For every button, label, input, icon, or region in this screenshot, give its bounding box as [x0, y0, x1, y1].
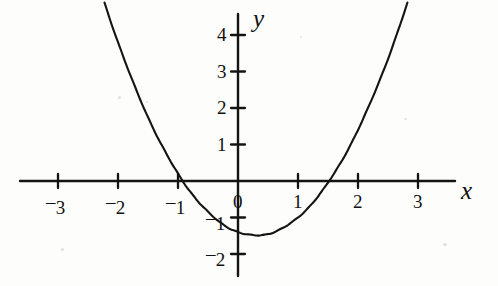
minus-sign: – — [106, 191, 115, 212]
y-tick-label: 1 — [217, 135, 227, 154]
y-tick-label: 4 — [217, 25, 227, 44]
y-tick-label: 3 — [217, 62, 227, 81]
scan-speck — [300, 36, 302, 38]
scan-speck — [404, 118, 407, 120]
minus-sign: – — [166, 191, 175, 212]
x-tick-label: 0 — [233, 192, 243, 211]
x-tick-label: –3 — [46, 192, 65, 217]
x-tick-label: 2 — [353, 192, 363, 211]
scan-speck — [443, 243, 447, 246]
y-tick-label: 2 — [217, 98, 227, 117]
x-axis-label: x — [461, 178, 472, 203]
x-tick-label: 3 — [413, 192, 423, 211]
x-tick-label: 1 — [293, 192, 303, 211]
parabola-plot — [0, 0, 498, 286]
graph-figure: y x –3–2–10123–2–11234 — [0, 0, 498, 286]
scan-speck — [146, 101, 148, 103]
x-tick-label: –2 — [106, 192, 125, 217]
minus-sign: – — [206, 243, 215, 264]
scan-speck — [118, 96, 121, 99]
minus-sign: – — [206, 207, 215, 228]
scan-speck — [61, 248, 64, 251]
x-tick-label: –1 — [166, 192, 185, 217]
minus-sign: – — [46, 191, 55, 212]
y-tick-label: –2 — [206, 244, 225, 269]
y-tick-label: –1 — [206, 208, 225, 233]
y-axis-label: y — [253, 6, 264, 31]
